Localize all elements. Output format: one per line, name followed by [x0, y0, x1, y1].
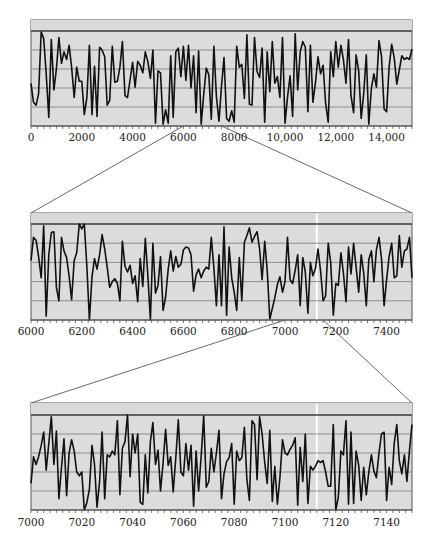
x-tick-label: 8000	[221, 131, 248, 143]
x-tick-label: 7100	[272, 516, 299, 528]
x-tick-label: 7080	[221, 516, 248, 528]
x-tick-label: 7120	[322, 516, 349, 528]
x-tick-label: 6000	[18, 325, 45, 337]
x-tick-label: 7020	[68, 516, 95, 528]
top-band	[31, 20, 412, 31]
top-band	[31, 213, 412, 224]
x-tick-label: 14,000	[368, 131, 405, 143]
x-tick-label: 10,000	[267, 131, 304, 143]
x-tick-label: 7200	[322, 325, 349, 337]
x-tick-label: 6600	[170, 325, 197, 337]
x-tick-label: 7140	[373, 516, 400, 528]
x-tick-label: 6200	[68, 325, 95, 337]
x-tick-label: 6800	[221, 325, 248, 337]
zoom-connector-left	[31, 126, 183, 213]
top-band	[31, 403, 412, 415]
highlight-stripe	[316, 404, 318, 510]
x-tick-label: 7060	[170, 516, 197, 528]
x-tick-label: 0	[28, 131, 35, 143]
x-tick-label: 7040	[119, 516, 146, 528]
x-tick-label: 6400	[119, 325, 146, 337]
zoom-chart-figure: 0200040006000800010,00012,00014,000 6000…	[0, 0, 433, 550]
x-tick-label: 12,000	[317, 131, 354, 143]
x-tick-label: 7400	[373, 325, 400, 337]
x-tick-label: 7000	[272, 325, 299, 337]
x-tick-label: 7000	[18, 516, 45, 528]
panel-zoom-level-2: 70007020704070607080710071207140	[18, 403, 412, 528]
panel-overview: 0200040006000800010,00012,00014,000	[28, 20, 412, 143]
x-tick-label: 2000	[68, 131, 95, 143]
x-tick-label: 6000	[170, 131, 197, 143]
panel-zoom-level-1: 60006200640066006800700072007400	[18, 213, 412, 337]
x-tick-label: 4000	[119, 131, 146, 143]
chart-canvas: 0200040006000800010,00012,00014,000 6000…	[0, 0, 433, 550]
